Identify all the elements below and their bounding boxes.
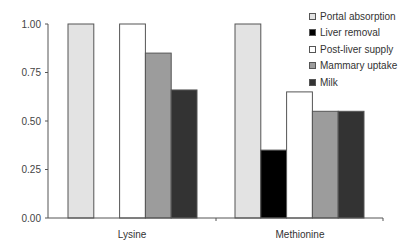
category-label-methionine: Methionine xyxy=(276,229,325,240)
legend-item-milk: Milk xyxy=(309,74,397,91)
legend-label: Mammary uptake xyxy=(320,60,397,71)
legend-label: Portal absorption xyxy=(320,11,396,22)
y-tick-label: 0.50 xyxy=(22,116,42,127)
legend-item-mammary-uptake: Mammary uptake xyxy=(309,58,397,75)
bar-lysine-portal-absorption xyxy=(68,24,94,218)
legend-swatch-icon xyxy=(309,29,316,36)
bar-methionine-liver-removal xyxy=(261,150,287,218)
legend-item-post-liver-supply: Post-liver supply xyxy=(309,41,397,58)
bar-methionine-milk xyxy=(338,111,364,218)
bar-lysine-mammary-uptake xyxy=(145,53,171,218)
bar-methionine-post-liver-supply xyxy=(287,92,313,218)
category-label-lysine: Lysine xyxy=(118,229,147,240)
y-axis-ticks: 0.000.250.500.751.00 xyxy=(22,19,48,224)
bar-lysine-milk xyxy=(171,90,197,218)
legend-label: Liver removal xyxy=(320,27,380,38)
legend-swatch-icon xyxy=(309,13,316,20)
bar-lysine-post-liver-supply xyxy=(120,24,146,218)
bar-methionine-portal-absorption xyxy=(235,24,261,218)
legend-label: Milk xyxy=(320,77,338,88)
y-tick-label: 0.00 xyxy=(22,213,42,224)
y-tick-label: 1.00 xyxy=(22,19,42,30)
legend-swatch-icon xyxy=(309,46,316,53)
bar-methionine-mammary-uptake xyxy=(312,111,338,218)
legend-item-portal-absorption: Portal absorption xyxy=(309,8,397,25)
legend-label: Post-liver supply xyxy=(320,44,393,55)
legend: Portal absorption Liver removal Post-liv… xyxy=(309,8,397,91)
legend-swatch-icon xyxy=(309,79,316,86)
legend-item-liver-removal: Liver removal xyxy=(309,25,397,42)
y-tick-label: 0.25 xyxy=(22,164,42,175)
legend-swatch-icon xyxy=(309,62,316,69)
y-tick-label: 0.75 xyxy=(22,67,42,78)
